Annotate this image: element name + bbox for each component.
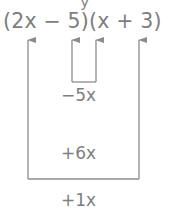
inner-product-bracket xyxy=(72,40,96,82)
foil-connector-diagram xyxy=(0,0,184,210)
middle-term-sum-label: +1x xyxy=(61,190,96,210)
outer-product-label: +6x xyxy=(61,143,96,163)
inner-product-label: −5x xyxy=(61,85,96,105)
